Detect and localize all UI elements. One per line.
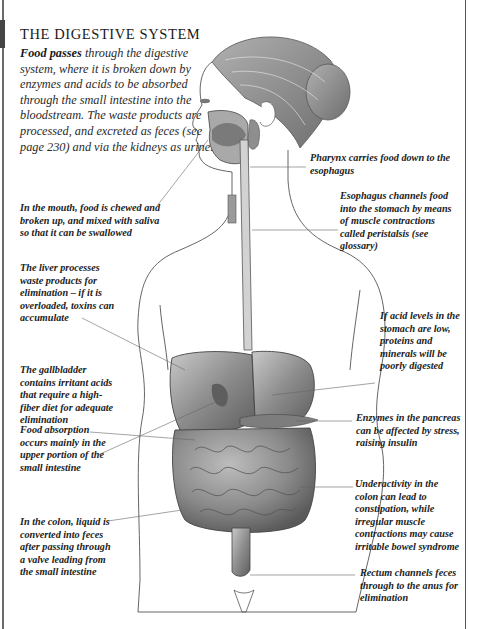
salivary-gland [248, 120, 260, 149]
page-title: THE DIGESTIVE SYSTEM [20, 26, 200, 43]
label-mouth: In the mouth, food is chewed and broken … [20, 202, 165, 240]
label-rectum: Rectum channels feces through to the anu… [360, 567, 462, 605]
intro-paragraph: Food passes through the digestive system… [20, 46, 220, 155]
ear [260, 102, 275, 127]
rectum [232, 528, 250, 576]
label-pancreas: Enzymes in the pancreas can be affected … [356, 412, 462, 450]
label-stomach-acid: If acid levels in the stomach are low, p… [380, 310, 464, 373]
larynx [228, 195, 236, 223]
anus-outline [234, 590, 254, 612]
label-colon-liquid: In the colon, liquid is converted into f… [20, 516, 116, 579]
stomach [252, 351, 314, 424]
label-pharynx: Pharynx carries food down to the esophag… [310, 152, 460, 177]
large-intestine [172, 428, 315, 532]
label-liver: The liver processes waste products for e… [20, 262, 120, 325]
esophagus [240, 140, 252, 350]
intro-body: through the digestive system, where it i… [20, 46, 213, 154]
intro-lead: Food passes [20, 46, 82, 60]
label-colon-underactivity: Underactivity in the colon can lead to c… [355, 478, 463, 554]
label-small-intestine: Food absorption occurs mainly in the upp… [20, 424, 118, 474]
label-esophagus: Esophagus channels food into the stomach… [340, 190, 458, 253]
label-gallbladder: The gallbladder contains irritant acids … [20, 364, 118, 427]
